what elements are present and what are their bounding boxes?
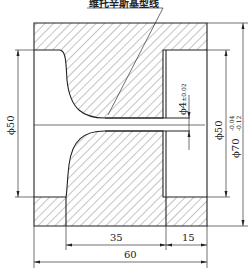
length-straight-label: 15: [182, 232, 195, 243]
arrow-icon: [225, 191, 228, 197]
lower-body-section: [34, 131, 207, 226]
outer-diameter-label: ϕ70: [230, 138, 241, 158]
arrow-icon: [242, 23, 245, 29]
outer-tol-upper: -0.04: [228, 115, 235, 131]
arrow-icon: [201, 261, 207, 264]
arrow-icon: [17, 191, 20, 197]
arrow-icon: [160, 244, 166, 247]
nozzle-cross-section-drawing: 维托辛斯基型线 ϕ50 ϕ4±0.02 ϕ50 ϕ70 -0.04 -0.12 …: [0, 0, 252, 279]
arrow-icon: [166, 244, 172, 247]
throat-diameter-label: ϕ4±0.02: [177, 83, 188, 115]
arrow-icon: [66, 244, 72, 247]
arrow-icon: [242, 220, 245, 226]
profile-label: 维托辛斯基型线: [89, 0, 159, 9]
arrow-icon: [201, 244, 207, 247]
arrow-icon: [225, 50, 228, 56]
arrow-icon: [17, 50, 20, 56]
outer-tol-lower: -0.12: [235, 115, 242, 131]
arrow-icon: [34, 261, 40, 264]
arrow-icon: [188, 131, 191, 137]
length-converging-label: 35: [110, 232, 123, 243]
right-diameter-label: ϕ50: [213, 120, 224, 140]
length-total-label: 60: [124, 249, 137, 260]
left-diameter-label: ϕ50: [5, 115, 16, 135]
